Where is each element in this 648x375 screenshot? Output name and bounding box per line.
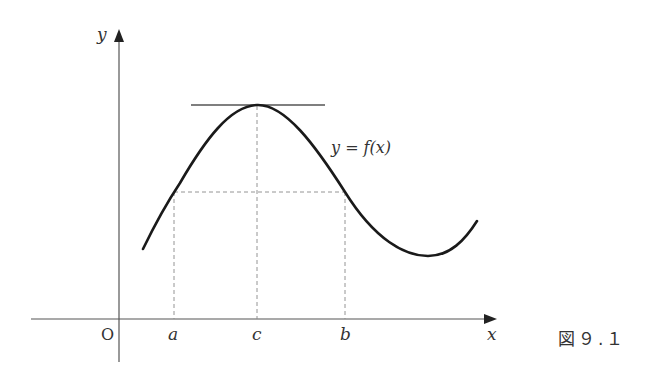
dashed-guides	[174, 106, 345, 319]
curve-label: y = f(x)	[330, 138, 391, 157]
function-curve	[143, 105, 477, 256]
y-axis-arrow-icon	[114, 29, 124, 42]
origin-label: O	[101, 325, 114, 344]
x-axis-arrow-icon	[484, 314, 497, 324]
figure-caption: 図９.１	[558, 329, 626, 349]
tick-label-a: a	[168, 324, 178, 344]
x-axis-label: x	[487, 324, 497, 344]
figure-canvas: y x O a c b y = f(x) 図９.１	[0, 0, 648, 375]
tick-label-b: b	[340, 324, 351, 344]
y-axis-label: y	[96, 24, 107, 44]
tick-label-c: c	[252, 324, 262, 344]
